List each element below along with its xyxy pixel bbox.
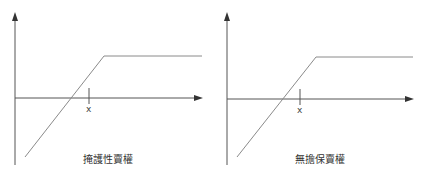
covered-put-payoff-graph — [0, 0, 211, 175]
naked-put-payoff-graph — [211, 0, 422, 175]
naked-put-diagram: x 無擔保賣權 — [211, 0, 422, 175]
panel-caption: 無擔保賣權 — [295, 151, 345, 166]
strike-label: x — [297, 105, 302, 115]
strike-label: x — [86, 104, 91, 114]
y-axis-arrow-icon — [12, 12, 18, 21]
payoff-line — [237, 57, 413, 157]
x-axis-arrow-icon — [405, 96, 414, 102]
covered-put-diagram: x 掩護性賣權 — [0, 0, 211, 175]
panel-caption: 掩護性賣權 — [83, 151, 133, 166]
payoff-line — [25, 56, 202, 157]
x-axis-arrow-icon — [194, 95, 203, 101]
y-axis-arrow-icon — [224, 12, 230, 21]
